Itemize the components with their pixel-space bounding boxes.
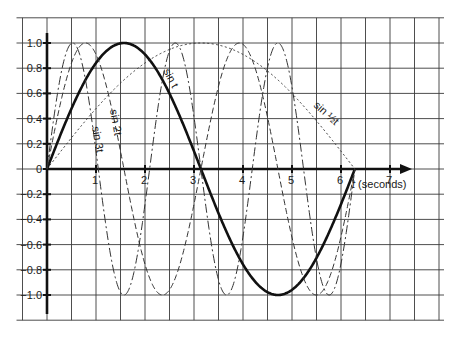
x-axis-arrow-icon <box>400 164 412 174</box>
x-axis-label-unit: (seconds) <box>355 178 406 190</box>
x-tick-label: 4 <box>239 174 245 186</box>
label-sin-3t: sin 3t <box>90 125 106 153</box>
curve-labels: sin tsin 2tsin 3tsin ½t <box>90 66 341 153</box>
y-tick-label: −0.6 <box>20 239 42 251</box>
x-tick-label: 6 <box>337 174 343 186</box>
axes <box>43 33 412 314</box>
y-tick-label: −0.4 <box>20 213 42 225</box>
y-tick-label: −0.2 <box>20 188 42 200</box>
label-sin-t: sin t <box>161 66 181 89</box>
y-tick-label: 0.2 <box>27 138 42 150</box>
curve-sin-t <box>47 43 355 169</box>
y-tick-label: 0.6 <box>27 87 42 99</box>
y-tick-label: 0 <box>36 163 42 175</box>
y-tick-label: 0.8 <box>27 62 42 74</box>
x-tick-label: 2 <box>141 174 147 186</box>
y-tick-label: −1.0 <box>20 289 42 301</box>
x-tick-label: 5 <box>288 174 294 186</box>
y-tick-label: 0.4 <box>27 113 42 125</box>
sine-waves-chart: 12345671.00.80.60.40.20−0.2−0.4−0.6−0.8−… <box>0 0 467 340</box>
x-tick-label: 3 <box>190 174 196 186</box>
y-tick-label: −0.8 <box>20 264 42 276</box>
label-sin-2t: sin 2t <box>108 108 124 136</box>
x-tick-label: 1 <box>92 174 98 186</box>
x-axis-label: t (seconds) <box>352 178 406 190</box>
y-tick-label: 1.0 <box>27 37 42 49</box>
